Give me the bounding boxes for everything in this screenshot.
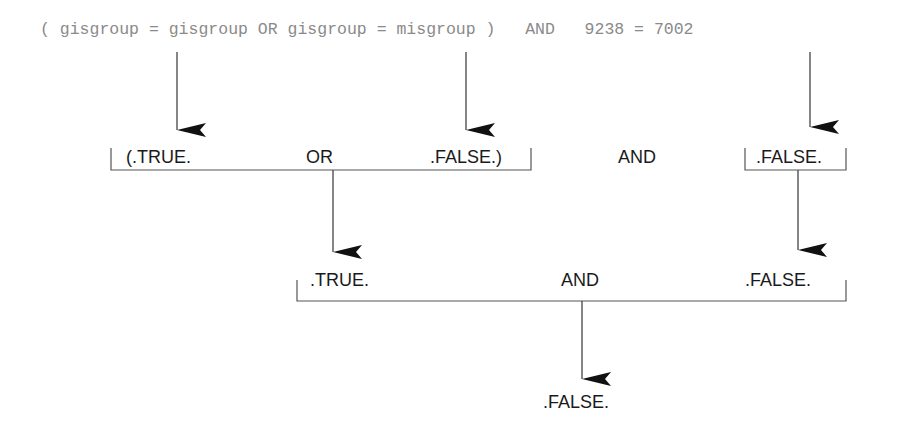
step1-true-label: (.TRUE. xyxy=(126,147,191,168)
final-result-label: .FALSE. xyxy=(543,392,609,413)
step1-or-label: OR xyxy=(306,147,333,168)
step1-right-false-label: .FALSE. xyxy=(756,147,822,168)
step2-false-label: .FALSE. xyxy=(745,270,811,291)
evaluation-diagram xyxy=(0,0,920,425)
step1-and-label: AND xyxy=(618,147,656,168)
step1-false-label: .FALSE.) xyxy=(430,147,502,168)
step2-true-label: .TRUE. xyxy=(310,270,369,291)
step2-and-label: AND xyxy=(561,270,599,291)
